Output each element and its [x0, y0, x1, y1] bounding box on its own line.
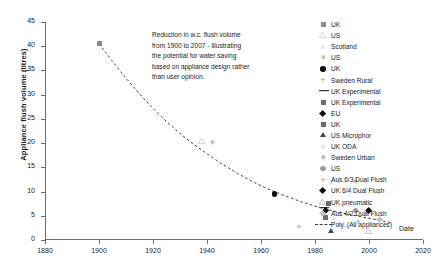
annotation-line: the potential for water saving [152, 51, 280, 62]
legend-marker [315, 130, 331, 141]
legend-item[interactable]: UK 6/4 Dual Flush [315, 185, 438, 196]
legend-marker [315, 163, 331, 174]
x-axis-tick: 1900 [99, 240, 100, 244]
y-axis-tick-label: 15 [27, 162, 35, 169]
annotation-line: than user opinion. [152, 72, 280, 83]
diamond-marker-icon [319, 209, 326, 216]
legend-marker [315, 219, 331, 230]
legend-item-label: Aus 6/3 Dual Flush [331, 176, 387, 183]
open-triangle-marker-icon [320, 199, 326, 204]
y-axis-tick-label: 10 [27, 187, 35, 194]
cross-marker-icon: × [319, 43, 327, 51]
legend-marker: — [315, 86, 331, 97]
y-axis-tick-label: 45 [27, 17, 35, 24]
legend-marker [315, 119, 331, 130]
star-marker-icon: ✳ [319, 154, 327, 162]
x-axis-tick: 1920 [153, 240, 154, 244]
dashed-line-marker-icon [315, 224, 332, 225]
legend-marker: ✳ [315, 152, 331, 163]
dash-marker-icon: — [319, 87, 327, 95]
legend-item[interactable]: ×UK ODA [315, 141, 438, 152]
legend-marker: × [315, 41, 331, 52]
legend-item[interactable]: Aus 4/2 Dual Flush [315, 208, 438, 219]
y-axis-tick-label: 0 [31, 235, 35, 242]
y-axis-tick-label: 35 [27, 65, 35, 72]
legend-marker [315, 19, 331, 30]
legend-item[interactable]: ✳Sweden Urban [315, 152, 438, 163]
square-marker-icon [321, 100, 326, 105]
legend-item[interactable]: ×Scotland [315, 41, 438, 52]
legend-item-label: UK [331, 21, 340, 28]
x-axis-tick: 1940 [207, 240, 208, 244]
plus-marker-icon: + [319, 176, 327, 184]
legend-item-label: UK pneumatic [331, 199, 372, 206]
x-axis-tick: 1880 [45, 240, 46, 244]
x-axis-tick: 1960 [261, 240, 262, 244]
plus-marker-icon: + [295, 223, 303, 231]
cross-marker-icon: × [319, 143, 327, 151]
diamond-marker-icon [319, 110, 326, 117]
legend-marker: + [315, 174, 331, 185]
legend-item[interactable]: UK pneumatic [315, 197, 438, 208]
diamond-marker-icon [319, 187, 326, 194]
legend-item-label: US Microphor [331, 132, 371, 139]
legend-item[interactable]: —UK Experimental [315, 86, 438, 97]
legend-marker: ✳ [315, 52, 331, 63]
x-axis-tick: 2000 [369, 240, 370, 244]
legend-item-label: UK Experimental [331, 88, 380, 95]
legend-item-label: Aus 4/2 Dual Flush [331, 210, 387, 217]
x-axis-tick-label: 1900 [91, 247, 107, 254]
open-triangle-marker-icon [320, 33, 326, 38]
circle-marker-icon [320, 66, 326, 72]
triangle-marker-icon [320, 132, 326, 137]
legend-item[interactable]: ✳US [315, 52, 438, 63]
legend-item-label: US [331, 32, 340, 39]
legend-marker [315, 185, 331, 196]
legend-item[interactable]: UK [315, 119, 438, 130]
y-axis-title: Appliance flush volume (litres) [19, 30, 28, 180]
y-axis-tick-label: 30 [27, 90, 35, 97]
legend-item-label: Scotland [331, 43, 357, 50]
legend-item[interactable]: EU [315, 108, 438, 119]
legend-item-label: Sweden Urban [331, 154, 375, 161]
legend-item-label: UK ODA [331, 143, 356, 150]
annotation-line: Reduction in w.c. flush volume [152, 30, 280, 41]
x-axis-tick-label: 1880 [37, 247, 53, 254]
x-axis-tick-label: 2000 [361, 247, 377, 254]
x-axis-tick-label: 1920 [145, 247, 161, 254]
legend-item[interactable]: US Microphor [315, 130, 438, 141]
x-axis-tick-label: 1980 [307, 247, 323, 254]
legend-marker [315, 108, 331, 119]
legend-item[interactable]: UK [315, 63, 438, 74]
star-marker-icon: ✳ [208, 139, 216, 147]
x-axis-tick-label: 2020 [415, 247, 431, 254]
legend-item[interactable]: UK [315, 19, 438, 30]
y-axis-tick-label: 40 [27, 41, 35, 48]
y-axis-tick-label: 5 [31, 211, 35, 218]
dot-circle-marker-icon [320, 166, 325, 171]
legend-item[interactable]: UK Experimental [315, 97, 438, 108]
legend-item[interactable]: Poly. (All appliances) [315, 219, 438, 230]
legend-item-label: UK [331, 121, 340, 128]
x-axis-tick: 1980 [315, 240, 316, 244]
legend-item[interactable]: +Aus 6/3 Dual Flush [315, 174, 438, 185]
legend-item[interactable]: US [315, 163, 438, 174]
legend-marker: × [315, 141, 331, 152]
legend-item[interactable]: US [315, 30, 438, 41]
x-axis-tick: 2020 [423, 240, 424, 244]
annotation-line: from 1900 to 2007 - illustrating [152, 41, 280, 52]
legend-item-label: US [331, 54, 340, 61]
plus-marker-icon: + [319, 76, 327, 84]
legend-marker: + [315, 75, 331, 86]
legend-marker [315, 208, 331, 219]
x-axis-tick-label: 1960 [253, 247, 269, 254]
legend-item-label: EU [331, 110, 340, 117]
circle-marker-icon [272, 191, 278, 197]
x-axis-tick-label: 1940 [199, 247, 215, 254]
annotation-line: based on appliance design rather [152, 62, 280, 73]
y-axis-tick-label: 25 [27, 114, 35, 121]
legend-item-label: UK 6/4 Dual Flush [331, 187, 385, 194]
legend-item[interactable]: +Sweden Rural [315, 74, 438, 85]
legend-marker [315, 97, 331, 108]
legend-item-label: UK [331, 65, 340, 72]
